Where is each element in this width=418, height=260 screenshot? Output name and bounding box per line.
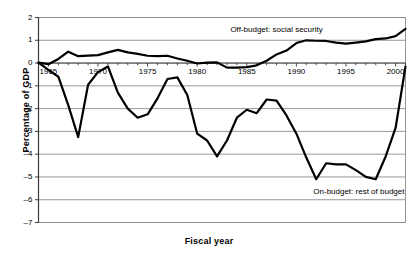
series-line-0 — [39, 29, 406, 68]
gridlines — [39, 18, 406, 223]
plot-frame — [39, 18, 406, 223]
data-series-layer — [39, 29, 406, 179]
series-line-1 — [39, 63, 406, 180]
axis-ticks — [35, 18, 406, 223]
chart-plot — [0, 0, 418, 260]
chart-container: Percentage of GDP Fiscal year 210–1–2–3–… — [0, 0, 418, 260]
